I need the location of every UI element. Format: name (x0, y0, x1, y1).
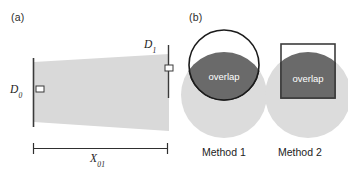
method-1-diagram: overlap (181, 30, 267, 138)
method2-overlap-label: overlap (292, 73, 323, 84)
distance-symbol: X (90, 152, 97, 164)
far-diameter-subscript: 1 (153, 46, 157, 55)
distance-label: X01 (90, 152, 105, 167)
method-2-caption: Method 2 (278, 146, 322, 158)
method-1-caption: Method 1 (202, 146, 246, 158)
near-diameter-subscript: 0 (19, 91, 23, 100)
far-diameter-label: D1 (144, 38, 156, 53)
figure-root: overlap overlap (a (0, 0, 348, 177)
near-diameter-symbol: D (10, 83, 18, 95)
panel-a-label: (a) (11, 11, 24, 23)
wedge-shape (34, 54, 169, 131)
panel-a-graphics (33, 45, 173, 154)
far-diameter-symbol: D (144, 38, 152, 50)
method1-overlap-label: overlap (208, 71, 239, 82)
distance-subscript: 01 (97, 160, 105, 169)
near-aperture-marker (36, 86, 44, 92)
method-2-diagram: overlap (265, 44, 348, 138)
panel-b-graphics: overlap overlap (181, 30, 348, 138)
far-aperture-marker (165, 65, 173, 71)
panel-b-label: (b) (189, 11, 202, 23)
near-diameter-label: D0 (10, 83, 22, 98)
